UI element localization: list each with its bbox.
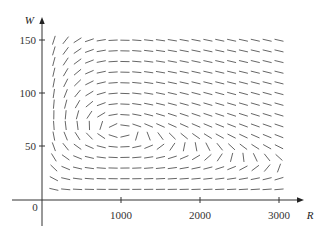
slope-segment bbox=[158, 133, 163, 140]
slope-segment bbox=[168, 50, 176, 51]
slope-segment bbox=[169, 133, 175, 139]
slope-segment bbox=[144, 50, 152, 51]
slope-segment bbox=[195, 143, 197, 151]
slope-segment bbox=[109, 83, 117, 84]
slope-segment bbox=[192, 124, 200, 127]
slope-segment bbox=[168, 156, 176, 159]
slope-segment bbox=[181, 133, 188, 138]
slope-segment bbox=[180, 167, 188, 168]
x-tick-label-2000: 2000 bbox=[189, 209, 212, 221]
slope-segment bbox=[227, 178, 235, 179]
slope-segment bbox=[263, 145, 270, 149]
slope-segment bbox=[265, 154, 270, 161]
slope-segment bbox=[252, 166, 259, 171]
slope-segment bbox=[145, 93, 153, 94]
slope-segment bbox=[263, 71, 271, 73]
slope-segment bbox=[251, 61, 259, 63]
slope-segment bbox=[240, 124, 248, 127]
slope-segment bbox=[180, 71, 188, 73]
slope-segment bbox=[228, 124, 236, 127]
slope-segment bbox=[86, 81, 94, 85]
slope-segment bbox=[216, 39, 224, 41]
slope-segment bbox=[97, 92, 105, 94]
slope-segment bbox=[239, 50, 247, 52]
slope-segment bbox=[121, 125, 129, 126]
slope-segment bbox=[217, 154, 222, 161]
slope-segment bbox=[86, 133, 92, 139]
slope-segment bbox=[65, 121, 66, 129]
slope-segment bbox=[156, 82, 164, 84]
slope-segment bbox=[239, 71, 247, 73]
slope-segment bbox=[147, 132, 150, 140]
slope-segment bbox=[263, 178, 271, 180]
slope-segment bbox=[63, 143, 68, 150]
slope-segment bbox=[275, 177, 283, 179]
slope-segment bbox=[275, 114, 283, 116]
slope-segment bbox=[74, 49, 81, 54]
slope-segment bbox=[228, 71, 236, 73]
slope-segment bbox=[276, 155, 282, 161]
slope-segment bbox=[75, 133, 80, 140]
slope-segment bbox=[145, 82, 153, 83]
slope-segment bbox=[156, 72, 164, 73]
slope-segment bbox=[144, 40, 152, 41]
slope-segment bbox=[251, 114, 259, 117]
slope-segment bbox=[156, 61, 164, 62]
slope-segment bbox=[216, 178, 224, 179]
slope-segment bbox=[156, 50, 164, 51]
slope-segment bbox=[228, 39, 236, 41]
slope-segment bbox=[76, 111, 78, 119]
slope-segment bbox=[240, 144, 247, 149]
x-axis-arrow-icon bbox=[297, 197, 304, 202]
direction-field-plot: 1000 2000 3000 150 100 50 0 R W bbox=[0, 0, 324, 237]
slope-segment bbox=[263, 114, 271, 116]
slope-segment bbox=[133, 114, 141, 116]
slope-segment bbox=[228, 82, 236, 84]
slope-segment bbox=[64, 79, 68, 87]
slope-segment bbox=[204, 61, 212, 63]
slope-segment bbox=[85, 39, 93, 42]
slope-segment bbox=[263, 103, 271, 105]
slope-segment bbox=[204, 113, 212, 116]
slope-segment bbox=[251, 178, 259, 180]
slope-segment bbox=[180, 113, 188, 116]
slope-segment bbox=[240, 134, 248, 138]
slope-segment bbox=[216, 167, 224, 170]
slope-segment bbox=[275, 82, 283, 84]
slope-segment bbox=[85, 167, 93, 168]
slope-segment bbox=[180, 124, 188, 127]
slope-segment bbox=[204, 134, 211, 138]
slope-segment bbox=[97, 71, 105, 73]
slope-segment bbox=[275, 124, 283, 127]
slope-segment bbox=[251, 134, 259, 137]
slope-segment bbox=[216, 71, 224, 73]
slope-segment bbox=[77, 121, 78, 129]
slope-segment bbox=[216, 113, 224, 116]
slope-segment bbox=[263, 50, 271, 52]
slope-segment bbox=[86, 145, 94, 148]
slope-segment bbox=[85, 156, 93, 158]
slope-segment bbox=[109, 72, 117, 73]
slope-segment bbox=[275, 71, 283, 73]
slope-segment bbox=[180, 50, 188, 52]
slope-segment bbox=[228, 113, 236, 116]
slope-segment bbox=[216, 92, 224, 94]
x-axis-label: R bbox=[306, 209, 314, 221]
slope-segment bbox=[275, 50, 283, 52]
slope-segment bbox=[228, 103, 236, 105]
slope-segment bbox=[228, 134, 235, 138]
slope-segment bbox=[263, 189, 271, 190]
slope-segment bbox=[133, 82, 141, 83]
slope-segment bbox=[156, 40, 164, 41]
slope-segment bbox=[109, 61, 117, 62]
slope-segment bbox=[97, 40, 105, 41]
slope-segment bbox=[85, 60, 93, 63]
slope-segment bbox=[75, 101, 79, 108]
slope-segment bbox=[145, 114, 153, 116]
y-axis-label: W bbox=[25, 14, 35, 26]
slope-segment bbox=[205, 155, 211, 161]
slope-segment bbox=[53, 100, 54, 108]
y-tick-label-50: 50 bbox=[25, 140, 37, 152]
slope-segment bbox=[73, 167, 81, 169]
slope-segment bbox=[109, 104, 117, 105]
